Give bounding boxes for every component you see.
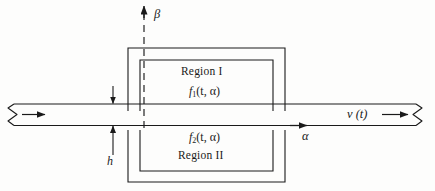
- strip-thickness-h-label: h: [107, 155, 113, 167]
- region-one-function-label: f1(t, α): [189, 85, 220, 99]
- technical-diagram: β α Region I f1(t, α) f2(t, α) Region II…: [0, 0, 435, 191]
- strip-break-left: [8, 104, 17, 126]
- velocity-label: v (t): [347, 108, 367, 121]
- region-one-label: Region I: [181, 66, 223, 78]
- region-one-outer-wall: [128, 48, 285, 111]
- alpha-axis-label: α: [302, 130, 309, 143]
- beta-axis-label: β: [154, 8, 160, 21]
- region-two-label: Region II: [178, 150, 224, 162]
- region-two-function-label: f2(t, α): [189, 131, 220, 145]
- strip-break-right: [413, 104, 422, 126]
- region-two-fn-args: (t, α): [196, 130, 220, 144]
- region-one-fn-args: (t, α): [196, 84, 220, 98]
